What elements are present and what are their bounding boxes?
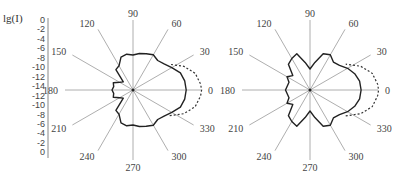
polar-charts: lg(I) 0-2-4-6-8-10-12-14-12-10-8-6-4-20 … [0, 0, 400, 178]
angle-label: 180 [43, 85, 58, 96]
radial-gridline [98, 29, 133, 90]
radial-gridline [310, 90, 345, 151]
angle-label: 30 [200, 46, 210, 57]
radial-gridline [98, 90, 133, 151]
angle-label: 120 [257, 18, 272, 29]
center-point [309, 89, 312, 92]
angle-label: 0 [385, 85, 390, 96]
y-tick-label: 0 [40, 147, 45, 157]
angle-label: 330 [377, 123, 392, 134]
angle-label: 90 [305, 8, 315, 19]
angle-label: 150 [51, 46, 66, 57]
radial-gridline [275, 90, 310, 151]
angle-label: 180 [220, 85, 235, 96]
angle-label: 150 [228, 46, 243, 57]
angle-label: 210 [51, 123, 66, 134]
angle-label: 210 [228, 123, 243, 134]
angle-label: 270 [126, 162, 141, 173]
radial-gridline [310, 55, 371, 90]
radial-gridline [249, 90, 310, 125]
center-point [132, 89, 135, 92]
angle-label: 60 [349, 18, 359, 29]
radial-gridline [72, 55, 133, 90]
radial-gridline [133, 55, 194, 90]
radial-gridline [133, 29, 168, 90]
angle-label: 300 [349, 151, 364, 162]
radial-gridline [310, 90, 371, 125]
right-polar-plot: 0306090120150180210240270300330 [220, 8, 392, 173]
radial-gridline [133, 90, 194, 125]
angle-label: 0 [208, 85, 213, 96]
angle-label: 90 [128, 8, 138, 19]
radial-gridline [249, 55, 310, 90]
angle-label: 300 [172, 151, 187, 162]
angle-label: 330 [200, 123, 215, 134]
figure: lg(I) 0-2-4-6-8-10-12-14-12-10-8-6-4-20 … [0, 0, 400, 178]
radial-gridline [72, 90, 133, 125]
angle-label: 240 [257, 151, 272, 162]
angle-label: 240 [80, 151, 95, 162]
radial-gridline [275, 29, 310, 90]
left-polar-plot: 0306090120150180210240270300330 [43, 8, 215, 173]
angle-label: 270 [303, 162, 318, 173]
radial-gridline [310, 29, 345, 90]
angle-label: 60 [172, 18, 182, 29]
y-axis-label: lg(I) [3, 12, 23, 25]
radial-gridline [133, 90, 168, 151]
angle-label: 120 [80, 18, 95, 29]
angle-label: 30 [377, 46, 387, 57]
